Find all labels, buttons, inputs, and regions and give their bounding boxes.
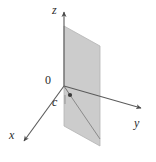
- x-axis-label: x: [9, 129, 14, 141]
- x-axis: [24, 86, 64, 141]
- origin-label: 0: [45, 74, 51, 86]
- coordinate-system-drawing: [0, 0, 156, 162]
- coordinate-system-figure: z y x 0 c: [0, 0, 156, 162]
- y-axis-label: y: [134, 117, 139, 129]
- vertical-plane: [64, 26, 100, 146]
- point-c-label: c: [52, 96, 57, 108]
- point-c-marker: [68, 93, 72, 97]
- z-axis-label: z: [52, 4, 57, 16]
